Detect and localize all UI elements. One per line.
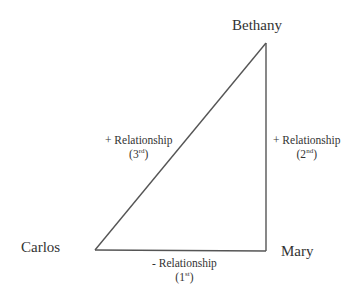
relationship-order: (2nd): [273, 147, 341, 161]
relationship-sign-label: + Relationship: [105, 133, 173, 147]
relationship-sign-label: + Relationship: [273, 133, 341, 147]
edge-carlos-mary: [95, 250, 266, 251]
relationship-order: (3rd): [105, 147, 173, 161]
edge-label-carlos-mary: - Relationship (1st): [152, 256, 217, 285]
relationship-sign-label: - Relationship: [152, 256, 217, 270]
node-carlos: Carlos: [21, 240, 60, 255]
node-bethany: Bethany: [232, 18, 282, 33]
node-mary: Mary: [281, 244, 314, 259]
edge-label-mary-bethany: + Relationship (2nd): [273, 133, 341, 162]
relationship-order: (1st): [152, 270, 217, 284]
edge-label-carlos-bethany: + Relationship (3rd): [105, 133, 173, 162]
